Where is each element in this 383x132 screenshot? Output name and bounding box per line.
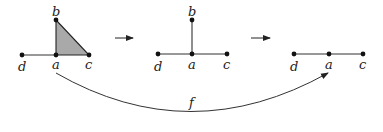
label-d: d	[154, 59, 162, 74]
label-d: d	[18, 59, 26, 74]
vertex-a	[327, 52, 332, 57]
vertex-c	[361, 52, 366, 57]
vertex-a	[190, 52, 195, 57]
vertex-c	[225, 52, 230, 57]
label-c: c	[223, 57, 231, 72]
stage-3-complex: d a c	[290, 52, 367, 74]
filled-triangle-abc	[56, 20, 89, 55]
label-a: a	[52, 57, 60, 72]
label-d: d	[290, 59, 298, 74]
label-b: b	[52, 4, 60, 19]
label-a: a	[325, 57, 333, 72]
label-b: b	[188, 4, 196, 19]
label-a: a	[188, 57, 196, 72]
collapse-diagram: b a c d b a c d d a c f	[0, 0, 383, 132]
stage-2-complex: b a c d	[154, 4, 231, 74]
vertex-d	[292, 52, 297, 57]
vertex-d	[156, 52, 161, 57]
label-c: c	[85, 57, 93, 72]
map-f-label: f	[188, 95, 196, 110]
label-c: c	[359, 57, 367, 72]
stage-1-complex: b a c d	[18, 4, 93, 74]
vertex-d	[20, 53, 25, 58]
